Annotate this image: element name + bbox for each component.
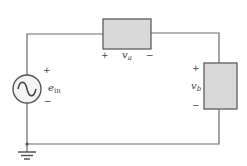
ground-icon [18,152,36,159]
source-label: ein [48,83,61,95]
element-a-label: va [122,50,132,62]
source-label-subscript: in [54,87,61,95]
circuit-diagram [0,0,247,166]
element-a-box [103,19,151,49]
element-a-label-subscript: a [128,54,132,62]
source-minus-sign: − [44,97,52,106]
element-b-label-subscript: b [197,85,201,93]
ground-node-dot [25,142,28,145]
ac-source-icon [13,75,41,103]
wire-left-top [27,34,103,75]
wire-right-bottom [28,109,219,144]
element-b-box [204,63,237,109]
element-a-plus-sign: + [101,51,109,60]
source-plus-sign: + [43,66,51,75]
element-b-minus-sign: − [192,101,200,110]
element-b-plus-sign: + [192,64,200,73]
wire-top-right [151,33,219,63]
element-a-minus-sign: − [146,51,154,60]
element-b-label: vb [191,81,201,93]
